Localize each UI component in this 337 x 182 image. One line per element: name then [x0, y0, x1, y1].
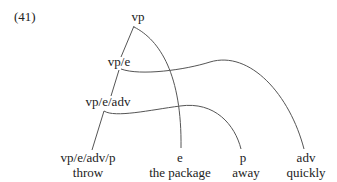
node-vp: vp	[132, 10, 145, 23]
edge-vpeadv-vpeadvp	[92, 111, 104, 150]
leaf-category-p: p	[240, 151, 247, 164]
leaf-category-adv: adv	[297, 151, 316, 164]
leaf-category-vp-e-adv-p: vp/e/adv/p	[61, 151, 116, 164]
leaf-word-quickly: quickly	[287, 166, 326, 179]
leaf-category-e: e	[177, 151, 183, 164]
leaf-word-the-package: the package	[149, 166, 211, 179]
leaf-word-throw: throw	[73, 166, 103, 179]
node-vp-e-adv: vp/e/adv	[86, 95, 131, 108]
tree-edges	[0, 0, 337, 182]
edge-vpe-vpeadv	[111, 70, 119, 96]
edge-vp-vpe	[121, 26, 134, 57]
edge-vpe-adv	[121, 60, 304, 149]
edge-vpeadv-p	[104, 105, 241, 149]
edge-vp-e	[134, 27, 181, 148]
leaf-word-away: away	[232, 166, 259, 179]
node-vp-e: vp/e	[108, 55, 130, 68]
